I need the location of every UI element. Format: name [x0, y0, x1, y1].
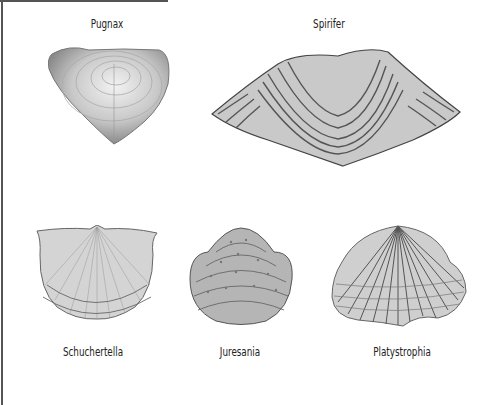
schuchertella-illustration [35, 225, 159, 320]
label-platystrophia: Platystrophia [351, 345, 453, 359]
spirifer-illustration [208, 44, 464, 169]
platystrophia-illustration [328, 222, 468, 330]
label-juresania: Juresania [189, 345, 291, 359]
label-spirifer: Spirifer [278, 17, 380, 31]
label-schuchertella: Schuchertella [42, 345, 144, 359]
label-pugnax: Pugnax [56, 17, 158, 31]
pugnax-illustration [44, 44, 174, 149]
frame-border-left [1, 0, 3, 405]
frame-border-top [0, 0, 168, 2]
juresania-illustration [186, 224, 296, 326]
